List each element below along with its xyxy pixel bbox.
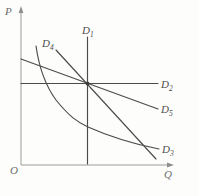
arrow-up-icon bbox=[19, 6, 24, 13]
intersection-dot bbox=[86, 82, 90, 86]
p-axis-label: P bbox=[4, 5, 12, 17]
label-d5: D5 bbox=[160, 103, 173, 118]
arrow-right-icon bbox=[167, 163, 174, 168]
figure-svg: D1 D2 D3 D4 D5 P Q O bbox=[0, 0, 198, 196]
label-d4: D4 bbox=[41, 37, 54, 52]
label-d2: D2 bbox=[160, 78, 173, 93]
origin-label: O bbox=[10, 164, 18, 176]
demand-curves-figure: D1 D2 D3 D4 D5 P Q O bbox=[0, 0, 198, 196]
curves-group bbox=[21, 37, 159, 164]
label-d1: D1 bbox=[81, 24, 94, 39]
curve-d4-steep bbox=[56, 50, 156, 159]
curve-d3-hyperbola bbox=[36, 46, 159, 149]
q-axis-label: Q bbox=[164, 168, 172, 180]
label-d3: D3 bbox=[161, 143, 174, 158]
